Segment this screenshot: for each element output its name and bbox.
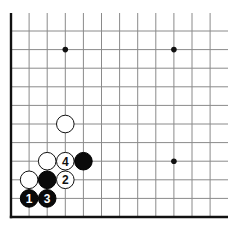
star-point-icon bbox=[171, 158, 177, 164]
black-stone bbox=[38, 171, 56, 189]
move-number: 2 bbox=[62, 173, 69, 187]
white-stone bbox=[38, 152, 56, 170]
star-point-icon bbox=[63, 47, 69, 53]
white-stone-icon bbox=[38, 152, 56, 170]
star-point-icon bbox=[171, 47, 177, 53]
white-stone bbox=[20, 171, 38, 189]
black-stone bbox=[75, 152, 93, 170]
black-stone-icon bbox=[38, 171, 56, 189]
white-stone-icon bbox=[57, 115, 75, 133]
move-number: 1 bbox=[26, 192, 33, 206]
black-stone: 1 bbox=[20, 190, 38, 208]
black-stone-icon bbox=[75, 152, 93, 170]
move-number: 3 bbox=[44, 192, 51, 206]
white-stone: 2 bbox=[57, 171, 75, 189]
black-stone: 3 bbox=[38, 190, 56, 208]
white-stone-icon bbox=[20, 171, 38, 189]
white-stone: 4 bbox=[57, 152, 75, 170]
go-board: 1324 bbox=[0, 0, 232, 230]
move-number: 4 bbox=[62, 155, 69, 169]
white-stone bbox=[57, 115, 75, 133]
